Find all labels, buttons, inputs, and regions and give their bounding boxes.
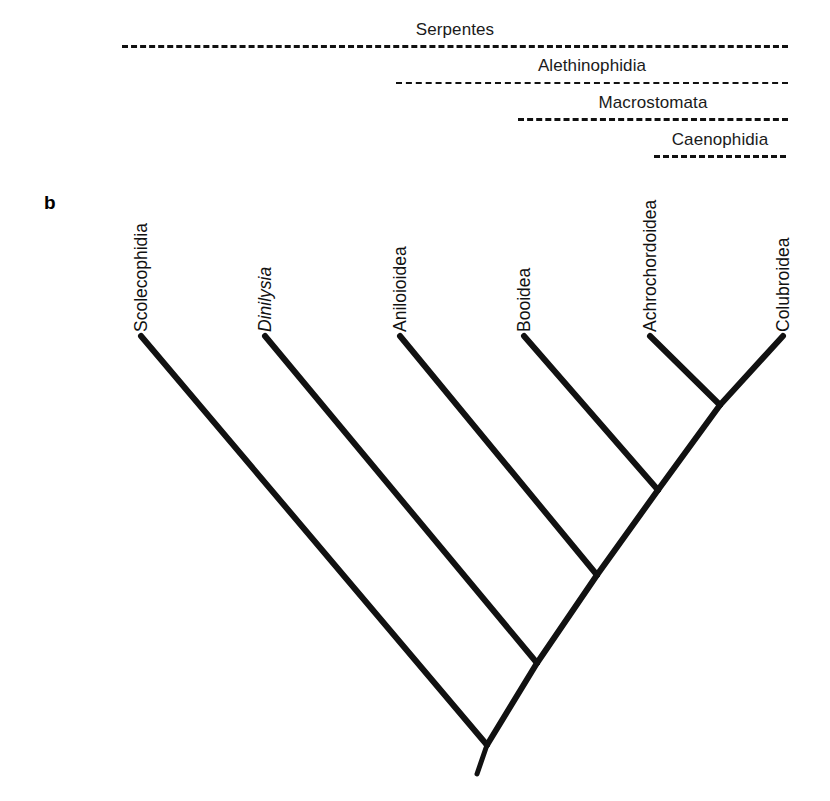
internal-macrostomata bbox=[597, 490, 658, 575]
cladogram-figure: b SerpentesAlethinophidiaMacrostomataCae… bbox=[0, 0, 830, 801]
root-stem bbox=[477, 745, 487, 774]
internal-serpentes bbox=[487, 663, 537, 745]
internal-alethinophidia bbox=[537, 575, 597, 663]
branch-colubroidea bbox=[720, 336, 783, 405]
branch-aniloioidea bbox=[400, 336, 597, 575]
phylogenetic-tree bbox=[0, 0, 830, 801]
internal-caenophidia bbox=[658, 405, 720, 490]
branch-achrochordoidea bbox=[650, 336, 720, 405]
branch-booidea bbox=[524, 336, 658, 490]
branch-dinilysia bbox=[265, 336, 537, 663]
